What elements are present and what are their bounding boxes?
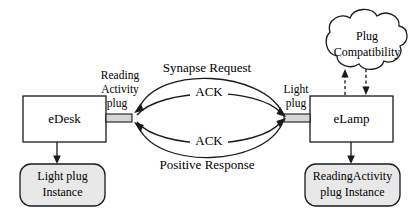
cloud-link-up bbox=[341, 69, 348, 95]
ack-top-arrowhead bbox=[277, 107, 287, 117]
diagram-canvas: eDesk Light plug Instance Reading Activi… bbox=[0, 0, 411, 218]
light-plug-line2: plug bbox=[286, 97, 307, 110]
elamp-instance-arrowhead bbox=[347, 156, 355, 165]
edesk-instance-arrowhead bbox=[53, 156, 61, 165]
synapse-request-label: Synapse Request bbox=[163, 60, 252, 75]
instance-light-plug[interactable]: Light plug Instance bbox=[20, 164, 105, 206]
elamp-to-instance-arrow bbox=[347, 142, 355, 164]
edesk-label: eDesk bbox=[48, 111, 81, 126]
cloud-plug-compatibility[interactable]: Plug Compatibility bbox=[326, 9, 407, 69]
diagram-svg: eDesk Light plug Instance Reading Activi… bbox=[0, 0, 411, 218]
reading-activity-plug-line3: plug bbox=[107, 97, 128, 110]
cloud-line1: Plug bbox=[356, 29, 378, 43]
cloud-link-up-arrowhead bbox=[341, 69, 348, 78]
ack-bottom-label: ACK bbox=[195, 133, 223, 148]
reading-activity-plug-line2: Activity bbox=[101, 83, 139, 96]
plug-reading-activity[interactable]: Reading Activity plug bbox=[101, 69, 140, 122]
light-plug-bar[interactable] bbox=[284, 114, 310, 122]
ack-top-label: ACK bbox=[195, 84, 223, 99]
reading-activity-plug-line1: Reading bbox=[101, 69, 140, 82]
synapse-request-arrowhead bbox=[134, 103, 144, 113]
reading-activity-plug-bar[interactable] bbox=[106, 114, 132, 122]
edesk-to-instance-arrow bbox=[53, 142, 61, 164]
reading-activity-plug-instance-line2: plug Instance bbox=[320, 185, 384, 199]
message-ack-top[interactable]: ACK bbox=[137, 84, 286, 117]
component-elamp[interactable]: eLamp bbox=[310, 96, 393, 142]
light-plug-instance-line1: Light plug bbox=[37, 169, 87, 183]
cloud-link-down-arrowhead bbox=[362, 87, 369, 96]
message-ack-bottom[interactable]: ACK bbox=[137, 118, 286, 149]
reading-activity-plug-instance-line1: ReadingActivity bbox=[313, 169, 392, 183]
cloud-line2: Compatibility bbox=[334, 45, 401, 59]
instance-reading-activity-plug[interactable]: ReadingActivity plug Instance bbox=[305, 164, 400, 206]
light-plug-line1: Light bbox=[284, 83, 310, 96]
light-plug-instance-line2: Instance bbox=[43, 185, 83, 199]
elamp-label: eLamp bbox=[333, 111, 369, 126]
component-edesk[interactable]: eDesk bbox=[23, 96, 106, 142]
positive-response-label: Positive Response bbox=[160, 157, 255, 172]
positive-response-arrowhead bbox=[134, 122, 144, 132]
plug-light[interactable]: Light plug bbox=[284, 83, 310, 122]
cloud-link-down bbox=[362, 69, 369, 95]
